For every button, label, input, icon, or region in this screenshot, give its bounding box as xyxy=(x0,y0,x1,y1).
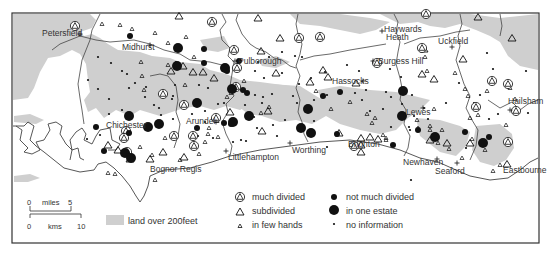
no-information-dot xyxy=(254,94,256,96)
much-divided-symbol xyxy=(229,45,238,54)
much-divided-symbol xyxy=(179,100,188,109)
no-information-dot xyxy=(427,118,429,120)
no-information-dot xyxy=(401,103,403,105)
no-information-dot xyxy=(385,91,387,93)
place-name: Brighton xyxy=(348,139,380,149)
no-information-dot xyxy=(400,76,402,78)
place-petersfield: Petersfield xyxy=(42,28,83,38)
no-information-dot xyxy=(261,102,263,104)
no-information-dot xyxy=(271,93,273,95)
no-information-dot xyxy=(408,126,410,128)
not-much-divided-dot xyxy=(337,89,343,95)
not-much-divided-dot xyxy=(93,124,99,130)
much-divided-symbol xyxy=(503,79,512,88)
not-much-divided-dot xyxy=(320,93,326,99)
much-divided-symbol xyxy=(315,32,324,41)
no-information-dot xyxy=(281,72,283,74)
one-estate-dot xyxy=(154,119,164,129)
place-name: Eastbourne xyxy=(503,165,547,175)
no-information-dot xyxy=(171,98,173,100)
place-name: Seaford xyxy=(435,166,465,176)
scale-miles-end: 5 xyxy=(68,198,72,207)
no-information-dot xyxy=(245,140,247,142)
not-much-divided-dot xyxy=(201,46,207,52)
place-heath: Heath xyxy=(386,32,409,42)
no-information-dot xyxy=(110,62,112,64)
place-bognor-regis: Bognor Regis xyxy=(150,164,202,174)
no-information-dot xyxy=(121,70,123,72)
one-estate-dot xyxy=(478,138,488,148)
not-much-divided-dot xyxy=(390,142,396,148)
place-name: Bognor Regis xyxy=(150,164,202,174)
no-information-dot xyxy=(87,79,89,81)
not-much-divided-dot xyxy=(126,130,132,136)
place-eastbourne: Eastbourne xyxy=(503,165,547,175)
no-information-dot xyxy=(294,55,296,57)
no-information-dot xyxy=(172,95,174,97)
much-divided-symbol xyxy=(207,17,216,26)
no-information-dot xyxy=(488,118,490,120)
place-name: Pulborough xyxy=(238,56,282,66)
no-information-dot xyxy=(126,73,128,75)
much-divided-symbol xyxy=(417,43,426,52)
much-divided-symbol xyxy=(421,9,430,18)
no-information-dot xyxy=(108,113,110,115)
no-information-dot xyxy=(410,179,412,181)
no-information-dot xyxy=(172,118,174,120)
no-information-dot xyxy=(313,99,315,101)
no-information-dot xyxy=(354,92,356,94)
place-name: Worthing xyxy=(292,145,326,155)
scale-kms-label: kms xyxy=(48,222,62,231)
no-information-dot xyxy=(326,146,328,148)
not-much-divided-dot xyxy=(462,129,468,135)
no-information-dot xyxy=(486,52,488,54)
place-name: Chichester xyxy=(106,120,147,130)
no-information-dot xyxy=(497,113,499,115)
much-divided-symbol xyxy=(189,141,198,150)
one-estate-dot xyxy=(398,86,408,96)
no-information-dot xyxy=(244,104,246,106)
legend-label: no information xyxy=(346,220,403,230)
no-information-dot xyxy=(276,135,278,137)
place-hassocks: Hassocks xyxy=(332,76,369,86)
no-information-dot xyxy=(207,87,209,89)
one-estate-dot xyxy=(192,98,202,108)
no-information-dot xyxy=(365,89,367,91)
legend-label: subdivided xyxy=(252,206,295,216)
no-information-dot xyxy=(134,82,136,84)
no-information-dot xyxy=(281,51,283,53)
no-information-dot xyxy=(390,96,392,98)
scale-kms-start: 0 xyxy=(27,222,31,231)
one-estate-dot xyxy=(244,111,254,121)
no-information-dot xyxy=(86,138,88,140)
no-information-dot xyxy=(361,99,363,101)
one-estate-dot xyxy=(126,153,136,163)
estate-ownership-map: PetersfieldMidhurstPulboroughHaywardsHea… xyxy=(0,0,550,254)
land-over-200ft-swatch xyxy=(106,215,124,225)
place-name: Arundel xyxy=(186,116,215,126)
place-chichester: Chichester xyxy=(106,120,147,130)
scale-miles-start: 0 xyxy=(27,198,31,207)
not-much-divided-dot xyxy=(415,127,421,133)
one-estate-dot xyxy=(172,61,182,71)
place-name: Uckfield xyxy=(438,36,469,46)
no-information-dot xyxy=(284,119,286,121)
place-lewes: Lewes xyxy=(406,106,431,118)
one-estate-dot xyxy=(228,117,238,127)
one-estate-dot xyxy=(306,128,316,138)
place-name: Burgess Hill xyxy=(378,56,423,66)
no-information-dot xyxy=(198,84,200,86)
no-information-dot xyxy=(174,84,176,86)
no-information-dot xyxy=(217,103,219,105)
not-much-divided-dot xyxy=(244,90,250,96)
place-name: Hailsham xyxy=(508,96,543,106)
no-information-dot xyxy=(262,96,264,98)
no-information-dot xyxy=(121,109,123,111)
no-information-dot xyxy=(296,102,298,104)
no-information-dot xyxy=(411,94,413,96)
no-information-dot xyxy=(160,114,162,116)
no-information-dot xyxy=(409,129,411,131)
no-information-dot xyxy=(292,95,294,97)
not-much-divided-dot xyxy=(127,33,133,39)
much-divided-symbol xyxy=(471,102,480,111)
